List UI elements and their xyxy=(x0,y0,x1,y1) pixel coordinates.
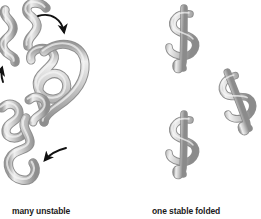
panel-folded-chains xyxy=(140,0,261,200)
arrow-top xyxy=(38,15,64,32)
figure-root: many unstable one stable folded xyxy=(0,0,261,219)
panel-unfolded-chains xyxy=(0,0,140,200)
arrow-bottom xyxy=(45,148,66,160)
unfolded-chain-2 xyxy=(25,2,46,46)
folded-chain-1 xyxy=(169,8,196,69)
caption-many-unstable: many unstable xyxy=(12,206,70,217)
folded-chain-3 xyxy=(169,114,196,175)
caption-row: many unstable one stable folded xyxy=(0,203,261,219)
arrow-left xyxy=(1,68,3,82)
unfolded-chain-1 xyxy=(1,9,15,62)
folded-chain-2 xyxy=(213,68,261,135)
caption-one-stable-folded: one stable folded xyxy=(152,206,220,217)
folded-chains-canvas xyxy=(140,0,261,200)
unfolded-chains-canvas xyxy=(0,0,140,200)
